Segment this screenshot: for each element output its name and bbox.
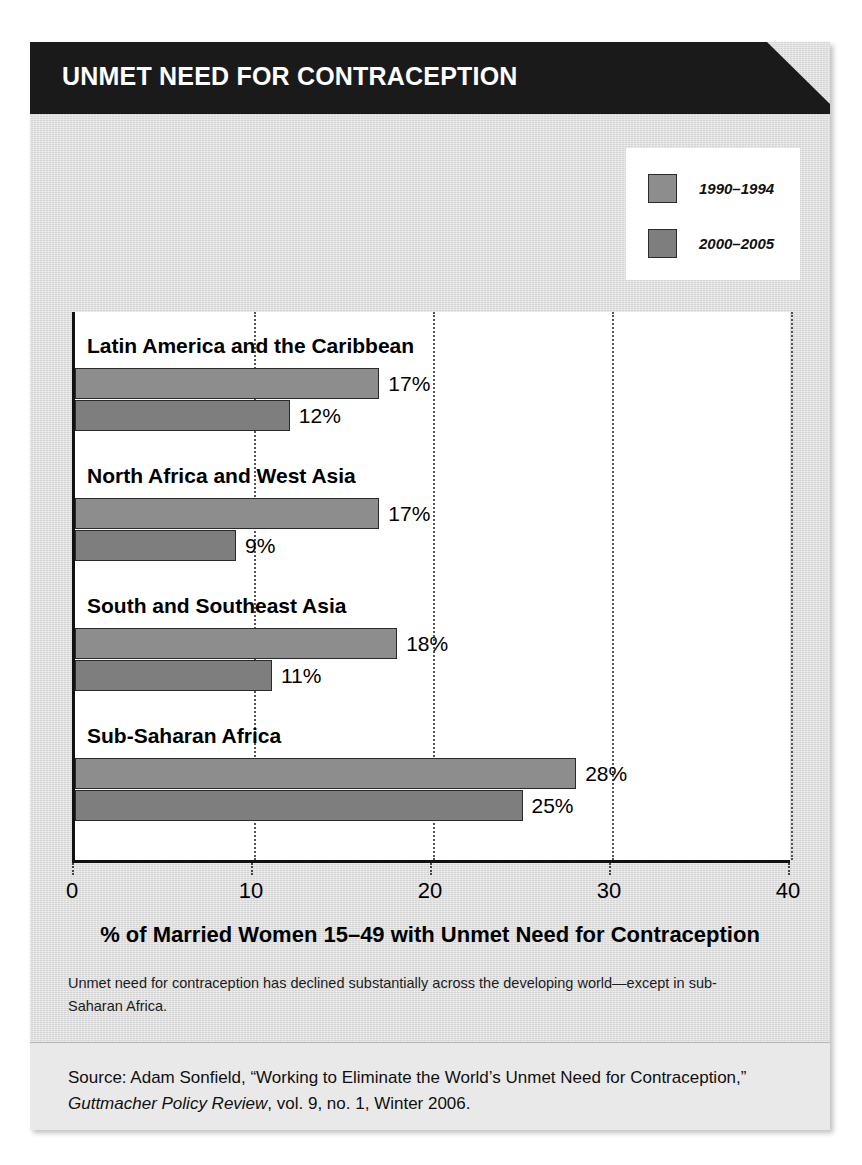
- bar: [75, 498, 379, 529]
- legend-swatch-icon: [648, 229, 677, 258]
- page-title: UNMET NEED FOR CONTRACEPTION: [62, 62, 518, 91]
- source-suffix: , vol. 9, no. 1, Winter 2006.: [267, 1094, 470, 1113]
- bar-group-label: North Africa and West Asia: [87, 464, 356, 488]
- bar: [75, 530, 236, 561]
- legend-label: 2000–2005: [699, 235, 774, 252]
- bar: [75, 628, 397, 659]
- x-axis-tick-label: 10: [239, 878, 263, 904]
- source-footer: Source: Adam Sonfield, “Working to Elimi…: [30, 1043, 830, 1130]
- source-citation: Source: Adam Sonfield, “Working to Elimi…: [68, 1065, 788, 1118]
- chart-plot-area: Latin America and the Caribbean17%12%Nor…: [72, 312, 790, 860]
- source-publication: Guttmacher Policy Review: [68, 1094, 267, 1113]
- bar-value-label: 11%: [281, 664, 321, 688]
- chart-legend: 1990–1994 2000–2005: [626, 148, 800, 280]
- x-axis-tick: [72, 863, 74, 875]
- bar-group-label: Latin America and the Caribbean: [87, 334, 414, 358]
- x-axis-tick: [788, 863, 790, 875]
- infographic-card: UNMET NEED FOR CONTRACEPTION 1990–1994 2…: [30, 42, 830, 1130]
- x-axis-tick: [609, 863, 611, 875]
- bar-value-label: 25%: [532, 794, 574, 818]
- bar-value-label: 9%: [245, 534, 275, 558]
- bar-value-label: 18%: [406, 632, 448, 656]
- bar: [75, 400, 290, 431]
- x-axis-tick: [430, 863, 432, 875]
- header-banner: UNMET NEED FOR CONTRACEPTION: [30, 42, 830, 114]
- source-prefix: Source: Adam Sonfield, “Working to Elimi…: [68, 1068, 746, 1087]
- bar-value-label: 12%: [299, 404, 341, 428]
- bar-value-label: 17%: [388, 372, 430, 396]
- bar-value-label: 28%: [585, 762, 627, 786]
- chart-bar-groups: Latin America and the Caribbean17%12%Nor…: [75, 312, 790, 860]
- legend-item-2000-2005: 2000–2005: [648, 229, 774, 258]
- bar-group-label: South and Southeast Asia: [87, 594, 346, 618]
- x-axis-tick-label: 20: [418, 878, 442, 904]
- bar: [75, 758, 576, 789]
- x-axis-tick-label: 30: [597, 878, 621, 904]
- x-axis-tick-label: 0: [66, 878, 78, 904]
- x-axis-tick: [251, 863, 253, 875]
- legend-swatch-icon: [648, 174, 677, 203]
- x-axis-title: % of Married Women 15–49 with Unmet Need…: [30, 922, 830, 948]
- bar: [75, 368, 379, 399]
- chart-caption: Unmet need for contraception has decline…: [68, 972, 768, 1018]
- gridline: [791, 312, 793, 860]
- bar: [75, 660, 272, 691]
- bar-group-label: Sub-Saharan Africa: [87, 724, 281, 748]
- bar: [75, 790, 523, 821]
- bar-value-label: 17%: [388, 502, 430, 526]
- legend-label: 1990–1994: [699, 180, 774, 197]
- x-axis-tick-label: 40: [776, 878, 800, 904]
- legend-item-1990-1994: 1990–1994: [648, 174, 774, 203]
